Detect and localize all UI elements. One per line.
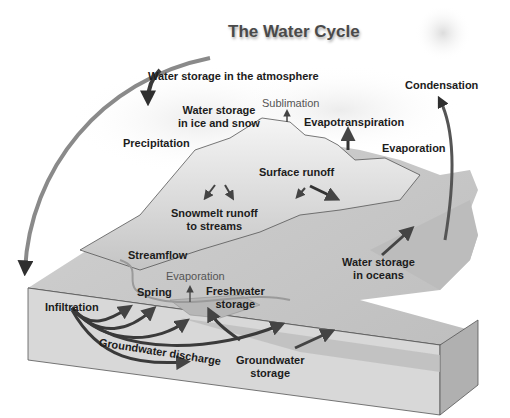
label-precipitation: Precipitation [123,137,190,150]
label-ice-snow-line2: in ice and snow [178,117,260,130]
label-oceans: Water storage in oceans [342,256,415,282]
label-infiltration: Infiltration [45,301,99,314]
label-groundwater-storage: Groundwater storage [236,354,304,380]
label-freshwater-line1: Freshwater [206,285,265,298]
label-snowmelt-line2: to streams [171,220,258,233]
label-evapotranspiration: Evapotranspiration [304,116,404,129]
label-atmosphere: Water storage in the atmosphere [148,70,319,83]
label-snowmelt: Snowmelt runoff to streams [171,207,258,233]
label-condensation: Condensation [405,79,478,92]
label-groundwater-storage-line2: storage [236,367,304,380]
label-sublimation: Sublimation [262,97,319,110]
label-groundwater-storage-line1: Groundwater [236,354,304,367]
label-spring: Spring [137,286,172,299]
sun-icon [415,5,471,61]
water-cycle-diagram: The Water Cycle Water storage in the atm… [0,0,510,418]
label-surface-runoff: Surface runoff [259,166,334,179]
label-ice-snow-line1: Water storage [178,104,260,117]
label-streamflow: Streamflow [128,249,187,262]
label-oceans-line2: in oceans [342,269,415,282]
diagram-title: The Water Cycle [228,22,360,42]
label-freshwater-line2: storage [206,298,265,311]
label-snowmelt-line1: Snowmelt runoff [171,207,258,220]
label-evaporation-lake: Evaporation [166,270,225,283]
label-oceans-line1: Water storage [342,256,415,269]
label-freshwater-storage: Freshwater storage [206,285,265,311]
label-evaporation-sea: Evaporation [382,142,446,155]
label-ice-snow: Water storage in ice and snow [178,104,260,130]
